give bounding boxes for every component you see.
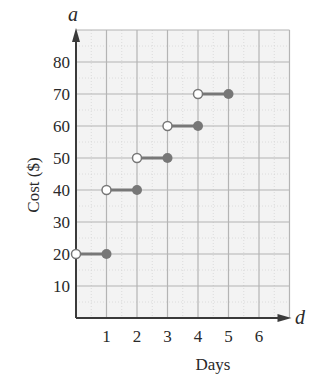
x-tick-label: 1 [102,327,111,346]
x-tick-label: 5 [224,327,233,346]
x-tick-label: 3 [163,327,172,346]
open-point-icon [102,186,111,195]
x-tick-label: 6 [255,327,264,346]
closed-point-icon [224,89,234,99]
y-tick-label: 10 [53,277,70,296]
y-tick-labels: 1020304050607080 [53,53,70,296]
closed-point-icon [132,185,142,195]
closed-point-icon [193,121,203,131]
y-tick-label: 50 [53,149,70,168]
x-tick-label: 2 [133,327,142,346]
step-function-chart: 1020304050607080 123456 a d Cost ($) Day… [0,0,316,386]
y-axis-title: Cost ($) [24,157,43,212]
y-tick-label: 30 [53,213,70,232]
open-point-icon [163,122,172,131]
x-axis-variable: d [295,306,306,328]
x-tick-label: 4 [194,327,203,346]
x-tick-labels: 123456 [102,327,263,346]
y-axis-variable: a [68,3,78,25]
y-tick-label: 40 [53,181,70,200]
y-tick-label: 70 [53,85,70,104]
x-axis-title: Days [196,355,231,374]
open-point-icon [194,90,203,99]
y-tick-label: 20 [53,245,70,264]
y-tick-label: 80 [53,53,70,72]
closed-point-icon [102,249,112,259]
y-tick-label: 60 [53,117,70,136]
closed-point-icon [163,153,173,163]
open-point-icon [72,250,81,259]
open-point-icon [133,154,142,163]
